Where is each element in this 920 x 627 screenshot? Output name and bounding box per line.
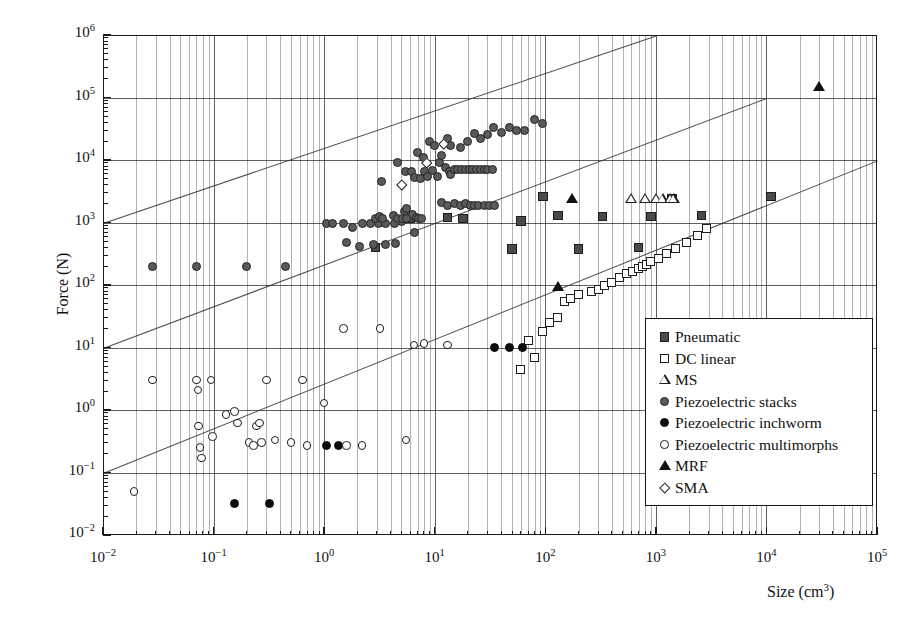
tick-mark [401,531,402,536]
tick-mark [103,67,108,68]
tick-mark [622,531,623,536]
data-point-pneumatic [634,243,644,253]
data-point-piezoelectric-stacks [192,262,201,271]
tick-mark [467,531,468,536]
tick-mark [103,100,108,101]
tick-mark [103,232,108,233]
data-point-piezoelectric-inchworm [322,441,331,450]
tick-mark [103,361,108,362]
triangle-inner [669,195,677,202]
tick-mark [852,531,853,536]
legend-item-dc-linear[interactable]: DC linear [656,348,861,370]
tick-mark [103,434,108,435]
tick-mark [103,173,108,174]
tick-mark [819,531,820,536]
tick-mark [103,491,108,492]
x-tick-label: 10−1 [184,549,244,566]
tick-mark [103,228,108,229]
tick-mark [103,48,108,49]
data-point-pneumatic [516,216,526,226]
legend-item-ms[interactable]: MS [656,369,861,391]
y-axis-title: Force (N) [54,234,72,334]
data-point-piezoelectric-stacks [490,201,499,210]
tick-mark [103,347,111,348]
tick-mark [103,391,108,392]
data-point-ms [668,193,680,203]
triangle-inner [627,195,635,202]
tick-mark [103,287,108,288]
tick-mark [103,116,108,117]
data-point-piezoelectric-stacks [281,262,290,271]
data-point-piezoelectric-inchworm [230,499,239,508]
legend-item-piezoelectric-multimorphs[interactable]: Piezoelectric multimorphs [656,434,861,456]
data-point-piezoelectric-inchworm [518,343,527,352]
tick-mark [103,328,108,329]
tick-mark [103,141,108,142]
tick-mark [501,531,502,536]
tick-mark [103,482,108,483]
legend-marker-square-open-icon [656,351,673,365]
data-point-pneumatic [697,211,707,221]
data-point-pneumatic [443,213,453,223]
data-point-mrf [813,81,825,91]
tick-mark [103,516,108,517]
tick-mark [103,497,108,498]
tick-mark [103,130,108,131]
tick-mark [180,531,181,536]
tick-mark [103,453,108,454]
tick-mark [103,350,108,351]
tick-mark [376,531,377,536]
tick-mark [512,531,513,536]
tick-mark [103,107,108,108]
legend-label: Piezoelectric inchworm [673,415,822,431]
tick-mark [638,531,639,536]
tick-mark [410,531,411,536]
tick-mark [859,531,860,536]
data-point-mrf [566,193,578,203]
legend-item-pneumatic[interactable]: Pneumatic [656,326,861,348]
tick-mark [103,37,108,38]
data-point-piezoelectric-stacks [433,172,442,181]
tick-mark [876,527,877,535]
tick-mark [689,531,690,536]
data-point-piezoelectric-stacks [242,262,251,271]
data-point-piezoelectric-multimorphs [233,419,242,428]
legend-label: Piezoelectric multimorphs [673,437,838,453]
x-tick-label: 103 [626,549,686,566]
legend-label: Pneumatic [673,329,740,345]
x-tick-label: 104 [736,549,796,566]
tick-mark [631,531,632,536]
tick-mark [103,222,111,223]
tick-mark [280,531,281,536]
data-point-piezoelectric-stacks [488,165,497,174]
legend-label: SMA [673,480,709,496]
tick-mark [103,534,111,535]
data-point-dc-linear [530,353,539,362]
data-point-piezoelectric-stacks [148,262,157,271]
y-tick-label: 100 [37,399,95,416]
x-tick-label: 102 [515,549,575,566]
triangle-inner [641,195,649,202]
legend-marker [660,418,669,427]
tick-mark [540,531,541,536]
tick-mark [390,531,391,536]
tick-mark [799,531,800,536]
y-tick-label: 10−2 [37,524,95,541]
tick-mark [266,531,267,536]
tick-mark [103,472,111,473]
tick-mark [578,531,579,536]
tick-mark [871,531,872,536]
tick-mark [103,184,108,185]
tick-mark [534,531,535,536]
tick-mark [103,505,108,506]
legend-item-piezoelectric-stacks[interactable]: Piezoelectric stacks [656,391,861,413]
legend-item-sma[interactable]: SMA [656,477,861,499]
tick-mark [103,97,111,98]
legend-item-piezoelectric-inchworm[interactable]: Piezoelectric inchworm [656,412,861,434]
legend-item-mrf[interactable]: MRF [656,455,861,477]
tick-mark [323,527,324,535]
tick-mark [103,162,108,163]
data-point-piezoelectric-stacks [437,151,446,160]
tick-mark [103,166,108,167]
y-tick-label: 101 [37,337,95,354]
